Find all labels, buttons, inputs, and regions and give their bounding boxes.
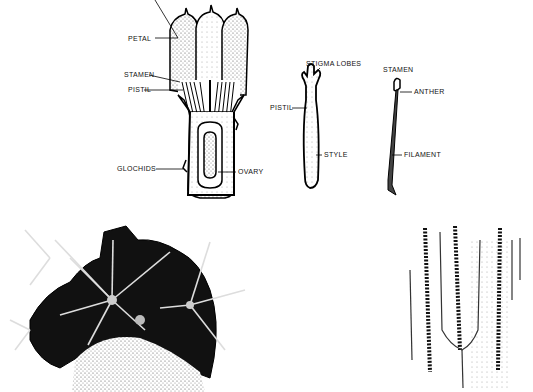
cactus-ribs-illustration xyxy=(410,226,520,390)
diagram-canvas xyxy=(0,0,533,392)
label-glochids: GLOCHIDS xyxy=(117,165,156,173)
stamen-illustration xyxy=(388,78,400,195)
cactus-top-illustration xyxy=(10,226,245,392)
label-stamen: STAMEN xyxy=(124,71,154,79)
label-stamen-detail: STAMEN xyxy=(383,66,413,74)
label-anther: ANTHER xyxy=(414,88,445,96)
label-pistil-detail: PISTIL xyxy=(270,104,293,112)
label-stigma-lobes: STIGMA LOBES xyxy=(306,60,361,68)
label-filament: FILAMENT xyxy=(404,151,441,159)
label-style: STYLE xyxy=(324,151,348,159)
label-petal: PETAL xyxy=(128,35,151,43)
pistil-illustration xyxy=(302,64,320,188)
label-ovary: OVARY xyxy=(238,168,263,176)
label-pistil: PISTIL xyxy=(128,86,151,94)
